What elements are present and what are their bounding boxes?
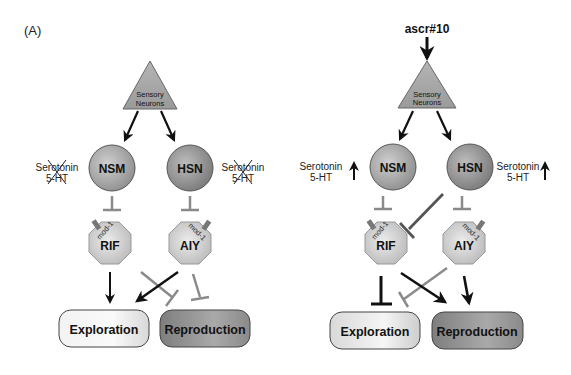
svg-text:Reproduction: Reproduction (436, 325, 517, 339)
right-arrow-aiy-reproduction (464, 276, 469, 303)
left-reproduction-box: Reproduction (160, 310, 250, 347)
right-sensory-neurons: Sensory Neurons (398, 61, 456, 108)
svg-text:AIY: AIY (180, 239, 200, 253)
svg-text:Reproduction: Reproduction (164, 323, 245, 337)
svg-text:RIF: RIF (376, 239, 395, 253)
left-rif-neuron: RIF mod-1 (89, 219, 131, 264)
svg-text:Serotonin: Serotonin (497, 161, 540, 172)
left-panel: Sensory Neurons NSM HSN Serotonin 5-HT S… (36, 61, 265, 347)
svg-text:HSN: HSN (457, 161, 482, 175)
left-exploration-box: Exploration (59, 310, 149, 347)
left-sensory-neurons: Sensory Neurons (123, 61, 177, 109)
svg-text:NSM: NSM (380, 161, 407, 175)
svg-text:Neurons: Neurons (136, 99, 165, 108)
svg-text:Neurons: Neurons (413, 98, 442, 107)
left-serotonin-absent-hsn: Serotonin 5-HT (222, 160, 265, 184)
right-serotonin-increased-nsm: Serotonin 5-HT (300, 161, 354, 183)
left-hsn-neuron: HSN (167, 145, 213, 191)
diagram-canvas: (A) Sensory Neurons NSM HSN Serotonin 5-… (0, 0, 571, 375)
svg-text:Exploration: Exploration (70, 323, 139, 337)
right-aiy-neuron: AIY mod-1 (443, 220, 485, 264)
svg-text:Exploration: Exploration (341, 325, 410, 339)
left-inhibit-nsm-rif (103, 196, 121, 210)
right-reproduction-box: Reproduction (432, 312, 523, 349)
right-inhibit-rif-exploration (371, 276, 392, 304)
left-arrow-sensory-nsm (125, 111, 138, 140)
svg-text:HSN: HSN (177, 162, 202, 176)
svg-text:RIF: RIF (100, 239, 119, 253)
right-exploration-box: Exploration (330, 312, 420, 349)
right-nsm-neuron: NSM (370, 144, 416, 190)
right-inhibit-hsn-aiy (453, 196, 471, 209)
right-rif-neuron: RIF mod-1 (365, 219, 407, 264)
stimulus-label: ascr#10 (405, 22, 450, 36)
svg-text:AIY: AIY (454, 239, 474, 253)
right-inhibit-nsm-rif (374, 196, 392, 209)
right-arrow-sensory-hsn (437, 111, 450, 139)
right-serotonin-increased-hsn: Serotonin 5-HT (497, 161, 545, 183)
right-arrow-sensory-nsm (400, 111, 413, 139)
right-panel: ascr#10 Sensory Neurons NSM HSN Serotoni… (300, 22, 545, 349)
panel-label: (A) (24, 23, 41, 38)
svg-text:Serotonin: Serotonin (300, 161, 343, 172)
left-nsm-neuron: NSM (89, 145, 135, 191)
left-inhibit-aiy-reproduction (191, 274, 209, 300)
svg-text:5-HT: 5-HT (507, 172, 529, 183)
right-hsn-neuron: HSN (447, 144, 493, 190)
svg-text:NSM: NSM (99, 162, 126, 176)
right-inhibit-hsn-rif (400, 194, 443, 238)
left-serotonin-absent-nsm: Serotonin 5-HT (36, 160, 79, 184)
svg-text:Sensory: Sensory (136, 90, 164, 99)
left-aiy-neuron: AIY mod-1 (169, 220, 211, 264)
left-inhibit-hsn-aiy (181, 196, 199, 210)
left-arrow-sensory-hsn (161, 111, 174, 140)
svg-text:5-HT: 5-HT (310, 172, 332, 183)
